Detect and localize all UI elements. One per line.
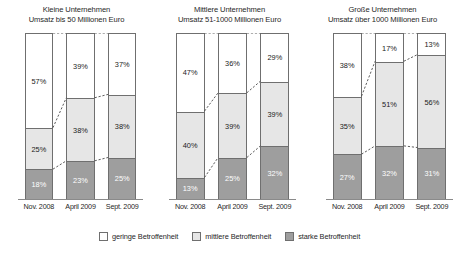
stacked-bar[interactable]: 57% 25% 18% bbox=[25, 33, 53, 199]
segment-geringe: 39% bbox=[67, 34, 93, 98]
x-axis-line bbox=[326, 199, 453, 200]
bar-slot: 29% 39% 32% bbox=[254, 33, 296, 199]
x-tick-label: April 2009 bbox=[211, 202, 253, 214]
segment-starke: 32% bbox=[261, 146, 288, 199]
plot-area: 38% 35% 27% 17% bbox=[326, 33, 453, 200]
bar-slot: 17% 51% 32% bbox=[368, 33, 410, 199]
x-tick-label: Sept. 2009 bbox=[101, 202, 143, 214]
segment-mittlere: 51% bbox=[376, 62, 403, 146]
x-tick-label: Nov. 2008 bbox=[326, 202, 368, 214]
bar-group: 38% 35% 27% 17% bbox=[326, 33, 453, 199]
panel-title-line1: Mittlere Unternehmen bbox=[194, 5, 265, 14]
chart-panel-large-companies: Große Unternehmen Umsatz über 1000 Milli… bbox=[306, 0, 459, 226]
stacked-bar[interactable]: 47% 40% 13% bbox=[176, 33, 205, 199]
legend-swatch-icon bbox=[285, 232, 294, 241]
segment-starke: 25% bbox=[109, 158, 135, 199]
plot-area: 47% 40% 13% 36% bbox=[169, 33, 296, 200]
panel-title: Große Unternehmen Umsatz über 1000 Milli… bbox=[306, 0, 459, 24]
x-axis-line bbox=[169, 199, 296, 200]
legend-label: geringe Betroffenheit bbox=[112, 232, 178, 241]
segment-starke: 18% bbox=[26, 169, 52, 199]
stacked-bar[interactable]: 13% 56% 31% bbox=[417, 33, 446, 199]
legend-item-mittlere[interactable]: mittlere Betroffenheit bbox=[192, 232, 271, 241]
stacked-bar[interactable]: 36% 39% 25% bbox=[218, 33, 247, 199]
stacked-bar[interactable]: 37% 38% 25% bbox=[108, 33, 136, 199]
segment-geringe: 37% bbox=[109, 34, 135, 95]
segment-geringe: 29% bbox=[261, 34, 288, 82]
segment-starke: 25% bbox=[219, 158, 246, 199]
x-axis-labels: Nov. 2008 April 2009 Sept. 2009 bbox=[326, 202, 453, 214]
segment-starke: 13% bbox=[177, 178, 204, 199]
bar-slot: 38% 35% 27% bbox=[326, 33, 368, 199]
chart-panel-medium-companies: Mittlere Unternehmen Umsatz 51-1000 Mill… bbox=[153, 0, 306, 226]
stacked-bar[interactable]: 38% 35% 27% bbox=[333, 33, 362, 199]
stacked-bar-chart: Kleine Unternehmen Umsatz bis 50 Million… bbox=[0, 0, 459, 226]
segment-geringe: 17% bbox=[376, 34, 403, 62]
x-axis-line bbox=[18, 199, 143, 200]
chart-legend: geringe Betroffenheit mittlere Betroffen… bbox=[0, 232, 459, 241]
x-tick-label: April 2009 bbox=[60, 202, 102, 214]
bar-slot: 13% 56% 31% bbox=[411, 33, 453, 199]
plot-area: 57% 25% 18% 39% bbox=[18, 33, 143, 200]
x-tick-label: Nov. 2008 bbox=[18, 202, 60, 214]
bar-group: 47% 40% 13% 36% bbox=[169, 33, 296, 199]
segment-mittlere: 39% bbox=[219, 93, 246, 157]
bar-slot: 47% 40% 13% bbox=[169, 33, 211, 199]
panel-title-line2: Umsatz 51-1000 Millionen Euro bbox=[153, 15, 306, 25]
segment-starke: 31% bbox=[418, 148, 445, 199]
panel-title-line1: Große Unternehmen bbox=[349, 5, 417, 14]
segment-mittlere: 38% bbox=[109, 95, 135, 158]
segment-starke: 27% bbox=[334, 154, 361, 199]
segment-mittlere: 40% bbox=[177, 112, 204, 178]
segment-geringe: 38% bbox=[334, 34, 361, 97]
legend-item-geringe[interactable]: geringe Betroffenheit bbox=[99, 232, 178, 241]
stacked-bar[interactable]: 39% 38% 23% bbox=[66, 33, 94, 199]
legend-label: mittlere Betroffenheit bbox=[205, 232, 271, 241]
x-tick-label: Sept. 2009 bbox=[411, 202, 453, 214]
legend-swatch-icon bbox=[99, 232, 108, 241]
segment-geringe: 57% bbox=[26, 34, 52, 128]
bar-slot: 37% 38% 25% bbox=[101, 33, 143, 199]
segment-mittlere: 25% bbox=[26, 128, 52, 169]
segment-geringe: 47% bbox=[177, 34, 204, 112]
legend-item-starke[interactable]: starke Betroffenheit bbox=[285, 232, 360, 241]
panel-title-line2: Umsatz bis 50 Millionen Euro bbox=[0, 15, 153, 25]
panel-title-line2: Umsatz über 1000 Millionen Euro bbox=[306, 15, 459, 25]
stacked-bar[interactable]: 29% 39% 32% bbox=[260, 33, 289, 199]
x-axis-labels: Nov. 2008 April 2009 Sept. 2009 bbox=[169, 202, 296, 214]
segment-geringe: 13% bbox=[418, 34, 445, 55]
panel-title: Mittlere Unternehmen Umsatz 51-1000 Mill… bbox=[153, 0, 306, 24]
segment-geringe: 36% bbox=[219, 34, 246, 93]
bar-group: 57% 25% 18% 39% bbox=[18, 33, 143, 199]
segment-mittlere: 56% bbox=[418, 55, 445, 147]
legend-swatch-icon bbox=[192, 232, 201, 241]
segment-mittlere: 35% bbox=[334, 97, 361, 155]
chart-panel-small-companies: Kleine Unternehmen Umsatz bis 50 Million… bbox=[0, 0, 153, 226]
bar-slot: 57% 25% 18% bbox=[18, 33, 60, 199]
segment-starke: 32% bbox=[376, 146, 403, 199]
x-axis-labels: Nov. 2008 April 2009 Sept. 2009 bbox=[18, 202, 143, 214]
panel-title-line1: Kleine Unternehmen bbox=[43, 5, 110, 14]
x-tick-label: Sept. 2009 bbox=[254, 202, 296, 214]
segment-mittlere: 39% bbox=[261, 82, 288, 146]
bar-slot: 36% 39% 25% bbox=[211, 33, 253, 199]
segment-mittlere: 38% bbox=[67, 98, 93, 161]
panel-title: Kleine Unternehmen Umsatz bis 50 Million… bbox=[0, 0, 153, 24]
stacked-bar[interactable]: 17% 51% 32% bbox=[375, 33, 404, 199]
legend-label: starke Betroffenheit bbox=[298, 232, 360, 241]
x-tick-label: April 2009 bbox=[368, 202, 410, 214]
bar-slot: 39% 38% 23% bbox=[60, 33, 102, 199]
x-tick-label: Nov. 2008 bbox=[169, 202, 211, 214]
segment-starke: 23% bbox=[67, 161, 93, 199]
